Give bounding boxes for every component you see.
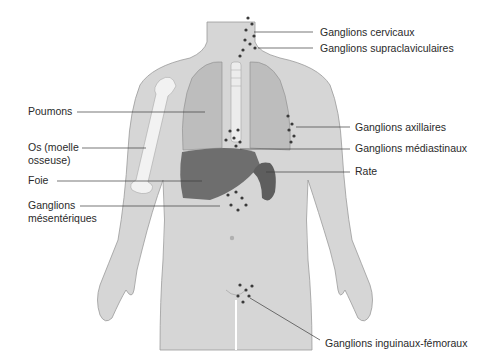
label-os-line1: Os (moelle [28, 141, 79, 154]
label-supraclaviculaires: Ganglions supraclaviculaires [320, 42, 454, 55]
label-mesenteriques-line1: Ganglions [28, 199, 75, 212]
lymphatic-system-diagram: Poumons Os (moelle osseuse) Foie Ganglio… [0, 0, 489, 363]
label-mediastinaux: Ganglions médiastinaux [355, 142, 467, 155]
label-mesenteriques-line2: mésentériques [28, 212, 97, 225]
label-inguinaux-femoraux: Ganglions inguinaux-fémoraux [325, 337, 467, 350]
label-os-line2: osseuse) [28, 154, 71, 167]
label-axillaires: Ganglions axillaires [355, 121, 446, 134]
label-poumons: Poumons [28, 105, 72, 118]
label-cervicaux: Ganglions cervicaux [320, 26, 415, 39]
label-foie: Foie [28, 174, 48, 187]
label-rate: Rate [355, 165, 377, 178]
